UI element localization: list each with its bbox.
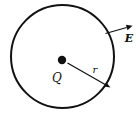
radius-label: r: [93, 64, 99, 75]
diagram-canvas: Q r E: [0, 0, 140, 117]
field-arrowhead-icon: [126, 25, 133, 30]
point-charge-dot: [58, 56, 66, 64]
field-label: E: [124, 32, 134, 45]
radius-arrow: [68, 63, 111, 88]
gauss-law-diagram: Q r E: [0, 0, 140, 117]
charge-label: Q: [52, 71, 62, 85]
